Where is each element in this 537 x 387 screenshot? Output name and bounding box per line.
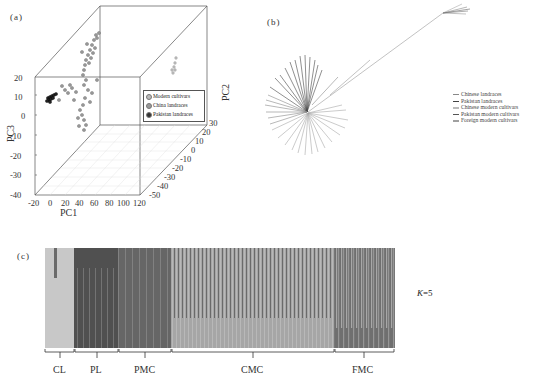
pc3-axis-title: PC3 <box>5 125 16 142</box>
line-swatch-icon <box>453 114 459 115</box>
pc3-tick: 10 <box>14 92 23 102</box>
legend-item: Chinese landraces <box>453 91 519 98</box>
pc2-axis-title: PC2 <box>220 84 231 101</box>
pc1-tick: -20 <box>28 198 39 208</box>
group-label-pl: PL <box>90 364 102 375</box>
pc3-tick: -30 <box>10 170 21 180</box>
pca-legend: Modern cultivars China landraces Pakista… <box>143 90 205 122</box>
legend-item: Foreign modern cultivars <box>453 117 519 124</box>
legend-item: Pakistan landraces <box>453 98 519 105</box>
pc1-tick: 0 <box>48 198 52 208</box>
group-brackets <box>45 349 394 358</box>
structure-plot <box>45 248 395 348</box>
pc1-tick: 60 <box>90 198 99 208</box>
pc1-tick: 120 <box>133 198 146 208</box>
line-swatch-icon <box>453 120 459 121</box>
legend-item: China landraces <box>146 101 202 110</box>
pc1-tick: 80 <box>105 198 114 208</box>
line-swatch-icon <box>453 101 459 102</box>
pc2-tick: -50 <box>149 190 160 200</box>
tree-legend: Chinese landraces Pakistan landraces Chi… <box>453 91 519 124</box>
pc1-tick: 100 <box>117 198 130 208</box>
k-value-label: K=5 <box>417 288 433 298</box>
legend-item: Chinese modern cultivars <box>453 104 519 111</box>
group-label-pmc: PMC <box>134 364 155 375</box>
legend-item: Pakistan landraces <box>146 110 202 119</box>
pc3-tick: 20 <box>14 73 23 83</box>
pc1-axis-title: PC1 <box>60 207 77 218</box>
circle-marker-icon <box>146 94 152 100</box>
group-label-cmc: CMC <box>241 364 263 375</box>
circle-marker-icon <box>146 112 152 118</box>
line-swatch-icon <box>453 94 459 95</box>
pc2-tick: 10 <box>195 136 204 146</box>
phylogenetic-tree <box>265 4 470 155</box>
pc2-tick: 0 <box>191 145 195 155</box>
line-swatch-icon <box>453 107 459 108</box>
legend-item: Pakistan modern cultivars <box>453 111 519 118</box>
pc3-tick: -20 <box>10 151 21 161</box>
circle-marker-icon <box>146 103 152 109</box>
pc3-tick: 0 <box>21 111 25 121</box>
legend-item: Modern cultivars <box>146 92 202 101</box>
group-label-cl: CL <box>53 364 66 375</box>
group-label-fmc: FMC <box>352 364 373 375</box>
pc3-tick: -40 <box>10 190 21 200</box>
